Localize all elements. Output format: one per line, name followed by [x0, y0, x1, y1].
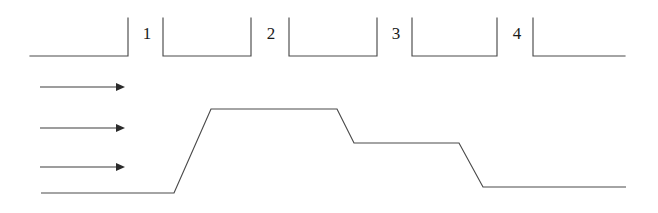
hydraulic-jump-diagram: 1 2 3 4 — [0, 0, 658, 213]
channel-wall-group — [30, 18, 625, 56]
flow-arrow-middle — [40, 124, 125, 132]
flow-profile-group — [41, 109, 626, 193]
flow-arrow-middle-head-icon — [116, 124, 125, 132]
diagram-canvas: 1 2 3 4 — [0, 0, 658, 213]
wall-segment-2 — [289, 18, 377, 56]
flow-arrow-bottom-head-icon — [116, 163, 125, 171]
gap-label-4: 4 — [513, 24, 522, 43]
free-surface-profile — [41, 109, 626, 193]
wall-segment-1 — [163, 18, 251, 56]
flow-arrow-top-head-icon — [116, 83, 125, 91]
flow-arrow-top — [40, 83, 125, 91]
gap-label-group: 1 2 3 4 — [143, 24, 522, 43]
wall-segment-3 — [412, 18, 497, 56]
wall-segment-4 — [533, 18, 625, 56]
gap-label-3: 3 — [392, 24, 401, 43]
flow-arrow-group — [40, 83, 125, 171]
wall-segment-0 — [30, 18, 128, 56]
gap-label-2: 2 — [267, 24, 276, 43]
flow-arrow-bottom — [40, 163, 125, 171]
gap-label-1: 1 — [143, 24, 152, 43]
